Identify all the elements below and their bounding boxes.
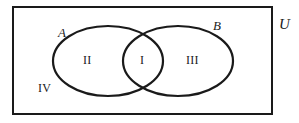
- region-label-ii: II: [83, 54, 92, 66]
- region-label-i: I: [140, 54, 144, 66]
- venn-diagram-canvas: [0, 0, 299, 123]
- set-b-label: B: [213, 19, 221, 32]
- venn-diagram: U A B I II III IV: [0, 0, 299, 123]
- set-a-label: A: [58, 26, 66, 39]
- universe-label: U: [279, 17, 290, 32]
- region-label-iv: IV: [38, 82, 51, 94]
- region-label-iii: III: [186, 54, 199, 66]
